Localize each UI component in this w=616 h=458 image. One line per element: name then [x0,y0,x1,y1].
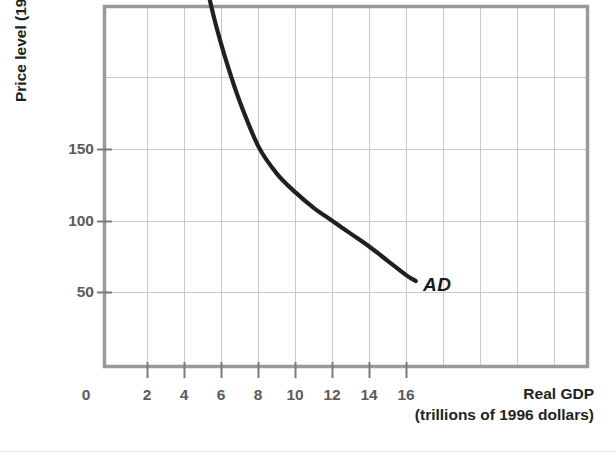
x-axis-title-line1: Real GDP [523,385,594,402]
x-tick-label-4: 4 [180,386,189,404]
x-tick-label-6: 6 [217,386,226,404]
x-tick-label-14: 14 [360,386,377,404]
aggregate-demand-chart-figure: Price level (1996 = 100) 150 100 50 0 2 … [0,0,616,458]
x-tick-label-16: 16 [397,386,414,404]
x-tick-label-2: 2 [143,386,152,404]
x-tick-label-8: 8 [254,386,263,404]
y-tick-label-100: 100 [58,212,94,230]
x-tick-label-10: 10 [286,386,303,404]
y-tick-label-50: 50 [58,283,94,301]
x-tick-label-12: 12 [323,386,340,404]
x-axis-title: Real GDP (trillions of 1996 dollars) [415,383,594,425]
y-tick-label-150: 150 [58,140,94,158]
ad-curve-label: AD [423,274,451,296]
plot-background [104,6,588,367]
x-axis-title-line2: (trillions of 1996 dollars) [415,404,594,425]
bottom-divider [0,451,616,452]
y-axis-title: Price level (1996 = 100) [10,0,32,102]
x-tick-label-0: 0 [82,386,91,404]
